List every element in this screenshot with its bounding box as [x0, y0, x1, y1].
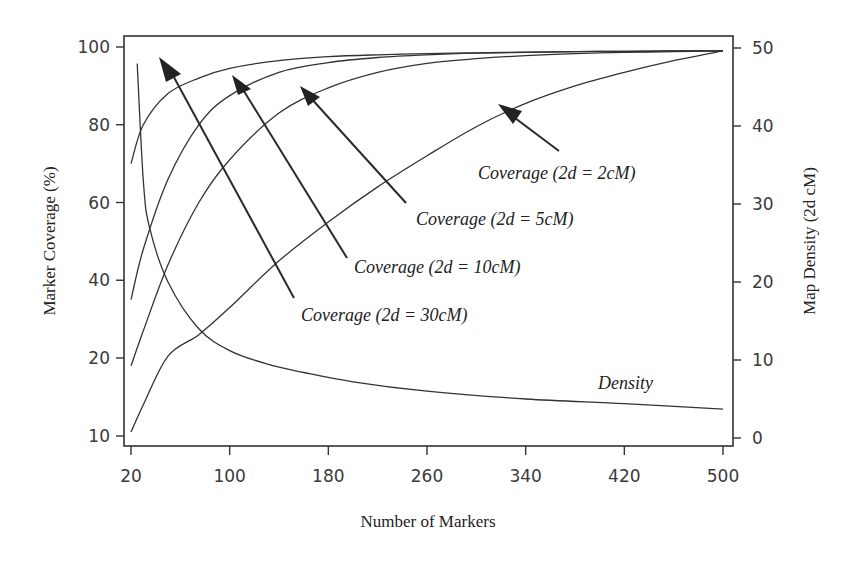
arrowhead-5cM-icon — [300, 86, 320, 106]
x-tick-label: 420 — [608, 466, 640, 486]
x-axis-title: Number of Markers — [360, 512, 495, 531]
x-axis-ticks: 20100180260340420500 — [120, 446, 739, 486]
annotation-10cM: Coverage (2d = 10cM) — [354, 257, 521, 278]
y-left-tick-label: 40 — [88, 270, 110, 290]
arrow-5cM — [309, 96, 406, 203]
marker-coverage-chart: 20100180260340420500 1008060402010 50403… — [0, 0, 858, 561]
curve-coverage-2d-30cm — [131, 51, 723, 164]
arrow-30cM — [170, 70, 294, 298]
x-tick-label: 180 — [312, 466, 344, 486]
y-axis-left-title: Marker Coverage (%) — [40, 166, 59, 315]
curve-density — [137, 64, 723, 410]
annotation-2cM: Coverage (2d = 2cM) — [478, 163, 636, 184]
y-left-tick-label: 10 — [88, 426, 110, 446]
y-left-tick-label: 60 — [88, 193, 110, 213]
annotation-density: Density — [597, 373, 653, 393]
y-right-tick-label: 30 — [752, 194, 774, 214]
x-tick-label: 20 — [120, 466, 142, 486]
y-right-tick-label: 0 — [752, 428, 763, 448]
y-right-tick-label: 10 — [752, 350, 774, 370]
annotation-30cM: Coverage (2d = 30cM) — [301, 305, 468, 326]
x-tick-label: 100 — [213, 466, 245, 486]
y-right-tick-label: 20 — [752, 272, 774, 292]
y-axis-right-ticks: 50403020100 — [733, 38, 774, 448]
y-left-tick-label: 100 — [78, 37, 110, 57]
x-tick-label: 500 — [707, 466, 739, 486]
y-axis-left-ticks: 1008060402010 — [78, 37, 124, 446]
y-axis-right-title: Map Density (2d cM) — [800, 167, 819, 315]
y-right-tick-label: 50 — [752, 38, 774, 58]
annotation-5cM: Coverage (2d = 5cM) — [416, 209, 574, 230]
x-tick-label: 260 — [411, 466, 443, 486]
y-left-tick-label: 80 — [88, 115, 110, 135]
arrowhead-30cM-icon — [159, 57, 181, 82]
y-left-tick-label: 20 — [88, 348, 110, 368]
y-right-tick-label: 40 — [752, 116, 774, 136]
x-tick-label: 340 — [509, 466, 541, 486]
